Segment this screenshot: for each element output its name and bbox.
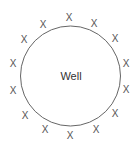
well-label: Well (60, 70, 81, 82)
x-marker: X (67, 130, 74, 141)
x-marker: X (10, 85, 17, 96)
x-marker: X (42, 124, 49, 135)
x-marker: X (40, 19, 47, 30)
x-marker: X (91, 18, 98, 29)
x-marker: X (10, 58, 17, 69)
x-marker: X (93, 124, 100, 135)
x-marker: X (66, 12, 73, 23)
well-diagram: Well XXXXXXXXXXXXXX (0, 0, 137, 146)
x-marker: X (22, 110, 29, 121)
x-marker: X (112, 108, 119, 119)
x-marker: X (21, 34, 28, 45)
x-marker: X (123, 84, 130, 95)
x-marker: X (112, 33, 119, 44)
x-marker: X (123, 58, 130, 69)
